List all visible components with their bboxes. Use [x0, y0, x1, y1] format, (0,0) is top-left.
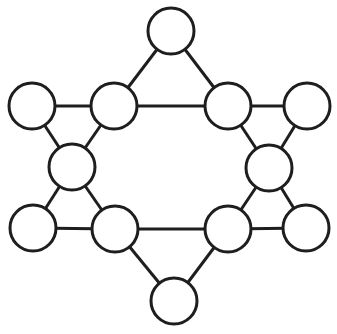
node-upper-right-outer: [284, 83, 330, 129]
node-lower-left-outer: [10, 205, 56, 251]
graph-diagram: [0, 0, 337, 334]
node-middle-left: [49, 144, 95, 190]
node-lower-right-outer: [283, 205, 329, 251]
node-top: [148, 8, 194, 54]
nodes-layer: [9, 8, 330, 324]
node-bottom: [151, 278, 197, 324]
node-upper-right-inner: [205, 83, 251, 129]
node-middle-right: [246, 145, 292, 191]
node-lower-left-inner: [92, 206, 138, 252]
node-upper-left-outer: [9, 83, 55, 129]
node-lower-right-inner: [205, 206, 251, 252]
node-upper-left-inner: [91, 83, 137, 129]
